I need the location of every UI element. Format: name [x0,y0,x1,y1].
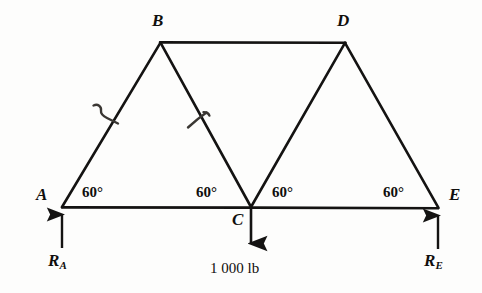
member-CD [251,43,345,207]
reaction-subscript-E: E [436,259,443,271]
truss-diagram-figure: A B C D E 60° 60° 60° 60° 1 000 lb RA RE [0,0,482,293]
tick-on-AB-icon [94,105,119,124]
member-BC [161,43,252,207]
applied-load-label: 1 000 lb [210,261,259,276]
node-label-A: A [36,186,47,203]
member-AB [62,43,161,207]
reaction-symbol-E: R [424,251,435,270]
node-label-C: C [232,211,243,228]
reaction-label-E: RE [424,252,443,271]
node-label-B: B [152,12,163,29]
node-label-E: E [449,186,460,203]
node-label-D: D [337,12,349,29]
angle-label-at-C-right: 60° [272,185,293,200]
angle-label-at-A: 60° [82,185,103,200]
angle-label-at-E: 60° [383,185,404,200]
reaction-subscript-A: A [60,259,67,271]
reaction-label-A: RA [48,252,67,271]
reaction-symbol-A: R [48,251,59,270]
truss-drawing [0,0,482,293]
angle-label-at-C-left: 60° [196,185,217,200]
